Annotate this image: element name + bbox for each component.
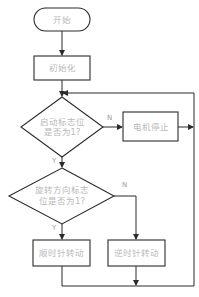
decision1-line2: 是否为1? <box>44 127 81 137</box>
decision1-diamond: 启动标志位 是否为1? <box>21 97 103 157</box>
decision1-line1: 启动标志位 <box>40 117 85 127</box>
decision2-no-label: N <box>122 181 127 189</box>
decision2-line1: 旋转方向标志 <box>35 185 89 195</box>
arrow-decision2-no <box>114 196 136 239</box>
decision2-yes-label: Y <box>51 224 57 232</box>
init-box: 初始化 <box>34 56 90 80</box>
decision1-yes-label: Y <box>51 157 57 165</box>
decision2-line2: 位是否为1? <box>39 196 85 206</box>
decision1-no-label: N <box>107 114 112 122</box>
motor-stop-label: 电机停止 <box>133 122 169 132</box>
clockwise-label: 顺时针转动 <box>39 248 84 258</box>
flowchart: 开始 初始化 启动标志位 是否为1? N 电机停止 Y 旋转方向标志 位是否为1… <box>0 0 199 297</box>
start-terminal: 开始 <box>34 8 90 31</box>
decision2-diamond: 旋转方向标志 位是否为1? <box>9 168 114 224</box>
start-label: 开始 <box>53 15 71 25</box>
counterclockwise-label: 逆时针转动 <box>114 248 159 258</box>
motor-stop-box: 电机停止 <box>123 112 178 141</box>
init-label: 初始化 <box>49 63 76 73</box>
clockwise-box: 顺时针转动 <box>33 240 90 266</box>
counterclockwise-box: 逆时针转动 <box>108 240 165 266</box>
